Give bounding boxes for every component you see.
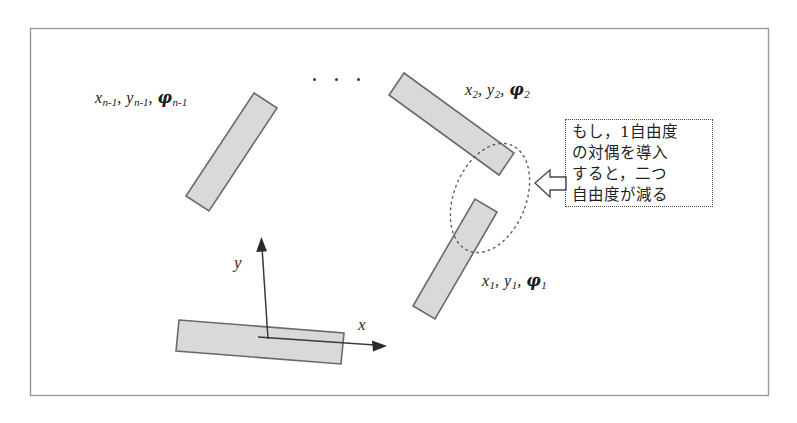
label-phi: φ [509, 80, 524, 99]
label-sep-1: , [495, 272, 504, 289]
callout-pointer-arrow [535, 170, 566, 197]
callout-line-4: 自由度が減る [572, 185, 708, 206]
label-y-sub: n-1 [134, 96, 149, 108]
label-phi-sub: 2 [524, 88, 530, 100]
callout-line-2: の対偶を導入 [572, 143, 708, 164]
label-phi-sub: n-1 [173, 96, 188, 108]
label-y: y [504, 272, 512, 289]
label-link-2: x2, y2, φ2 [465, 80, 530, 100]
link-bar-n-minus-1 [186, 93, 277, 211]
x-axis-label: x [358, 315, 366, 335]
label-sep-2: , [500, 81, 509, 98]
label-x: x [465, 81, 473, 98]
y-axis-arrowhead [256, 237, 267, 252]
label-x-sub: n-1 [103, 96, 118, 108]
y-axis-label: y [234, 253, 242, 273]
figure-svg [0, 0, 797, 423]
y-axis-line [262, 247, 268, 339]
label-phi: φ [526, 271, 541, 290]
label-y: y [126, 89, 134, 106]
diagram-canvas: xn-1, yn-1, φn-1 x2, y2, φ2 x1, y1, φ1 y… [0, 0, 797, 423]
label-phi-sub: 1 [541, 279, 547, 291]
x-axis-arrowhead [372, 341, 387, 352]
label-sep-1: , [478, 81, 487, 98]
label-link-1: x1, y1, φ1 [482, 271, 547, 291]
label-link-n-minus-1: xn-1, yn-1, φn-1 [95, 88, 187, 108]
callout-line-1: もし，1自由度 [572, 122, 708, 143]
label-phi: φ [158, 88, 173, 107]
label-y: y [487, 81, 495, 98]
label-x: x [95, 89, 103, 106]
label-x: x [482, 272, 490, 289]
label-sep-1: , [117, 89, 126, 106]
ellipsis-dots [313, 74, 365, 86]
link-bar-base [176, 320, 344, 364]
label-sep-2: , [149, 89, 158, 106]
link-bar-1 [413, 199, 497, 319]
callout-line-3: すると，二つ [572, 164, 708, 185]
label-sep-2: , [517, 272, 526, 289]
callout-textbox: もし，1自由度 の対偶を導入 すると，二つ 自由度が減る [565, 119, 713, 207]
